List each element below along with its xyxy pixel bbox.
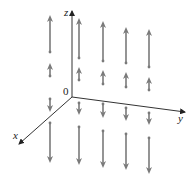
x-axis: [19, 97, 72, 144]
vector-arrow: [47, 98, 53, 112]
y-axis-label: y: [178, 113, 183, 124]
vector-arrow: [100, 21, 106, 62]
vector-arrow: [100, 70, 106, 85]
vector-arrow: [123, 107, 129, 121]
axes: [19, 11, 185, 144]
vector-arrow: [76, 102, 82, 115]
vector-arrow: [76, 67, 82, 81]
origin-label: 0: [63, 86, 69, 97]
vector-arrow: [47, 15, 53, 53]
vector-arrow: [146, 29, 152, 68]
vector-arrow: [76, 126, 82, 165]
vector-arrow: [123, 72, 129, 88]
vector-arrow: [146, 77, 152, 91]
z-axis-label: z: [64, 7, 68, 18]
vector-arrow: [123, 27, 129, 64]
vector-arrow: [100, 130, 106, 168]
y-axis: [72, 97, 185, 112]
vector-arrow: [123, 133, 129, 170]
vector-field-diagram: z 0 y x: [0, 0, 195, 189]
vector-arrow: [100, 103, 106, 118]
vector-arrow: [47, 122, 53, 163]
vector-arrow: [146, 112, 152, 125]
vector-arrow: [76, 18, 82, 59]
vector-arrow: [146, 137, 152, 174]
vector-field-plot: [0, 0, 195, 189]
vector-arrow: [47, 63, 53, 77]
x-axis-label: x: [13, 130, 18, 141]
